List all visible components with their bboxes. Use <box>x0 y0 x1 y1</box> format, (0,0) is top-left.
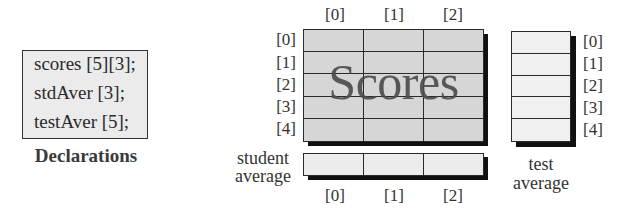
test-average-row-label-0: [0] <box>583 33 609 51</box>
scores-cell <box>424 97 483 119</box>
scores-row-label-0: [0] <box>270 31 296 49</box>
student-average-cell <box>424 154 483 175</box>
test-average-row-label-1: [1] <box>583 55 609 73</box>
test-average-row-label-2: [2] <box>583 77 609 95</box>
scores-cell <box>364 97 424 119</box>
scores-cell <box>364 52 424 74</box>
scores-grid <box>303 29 484 142</box>
declaration-scores: scores [5][3]; <box>34 54 136 74</box>
declaration-testaver: testAver [5]; <box>34 112 129 132</box>
test-average-cell <box>512 32 570 54</box>
scores-cell <box>424 119 483 141</box>
test-average-caption-line2: average <box>506 174 576 192</box>
student-average-cell <box>364 154 424 175</box>
scores-cell <box>304 119 364 141</box>
test-average-caption-line1: test <box>506 155 576 173</box>
test-average-cell <box>512 97 570 119</box>
scores-cell <box>424 74 483 96</box>
test-average-row-label-4: [4] <box>583 121 609 139</box>
scores-row-label-1: [1] <box>270 54 296 72</box>
test-average-cell <box>512 119 570 141</box>
student-average-col-label-1: [1] <box>364 187 424 205</box>
scores-row-label-3: [3] <box>270 98 296 116</box>
student-average-caption-line1: student <box>228 149 298 167</box>
scores-cell <box>364 30 424 52</box>
student-average-col-label-2: [2] <box>423 187 483 205</box>
student-average-array <box>303 153 484 176</box>
scores-cell <box>304 74 364 96</box>
scores-cell <box>364 74 424 96</box>
test-average-row-label-3: [3] <box>583 99 609 117</box>
scores-row-label-2: [2] <box>270 76 296 94</box>
scores-row-label-4: [4] <box>270 120 296 138</box>
scores-cell <box>364 119 424 141</box>
scores-col-label-1: [1] <box>364 6 424 24</box>
test-average-array <box>511 31 571 142</box>
student-average-cell <box>304 154 364 175</box>
scores-cell <box>304 30 364 52</box>
scores-cell <box>424 52 483 74</box>
scores-cell <box>424 30 483 52</box>
declaration-stdaver: stdAver [3]; <box>34 83 125 103</box>
scores-cell <box>304 52 364 74</box>
declarations-title: Declarations <box>22 145 150 167</box>
scores-col-label-2: [2] <box>423 6 483 24</box>
scores-col-label-0: [0] <box>305 6 365 24</box>
student-average-caption-line2: average <box>228 167 298 185</box>
test-average-cell <box>512 76 570 98</box>
declarations-box: scores [5][3]; stdAver [3]; testAver [5]… <box>22 50 148 139</box>
student-average-col-label-0: [0] <box>305 187 365 205</box>
scores-cell <box>304 97 364 119</box>
test-average-cell <box>512 54 570 76</box>
